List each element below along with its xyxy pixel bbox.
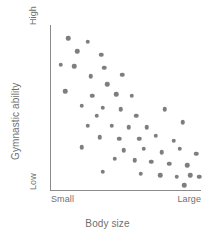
y-tick-label-low: Low <box>28 156 38 190</box>
data-point <box>89 74 94 79</box>
data-point <box>95 114 100 119</box>
data-point <box>138 171 143 176</box>
data-point <box>141 147 146 152</box>
data-point <box>66 36 71 41</box>
scatter-plot-figure: Gymnastic ability High Low Small Large B… <box>0 0 215 244</box>
data-point <box>101 105 106 110</box>
data-point <box>120 72 125 77</box>
x-tick-label-small: Small <box>51 194 74 204</box>
data-point <box>113 156 118 161</box>
data-point <box>79 145 84 150</box>
x-axis-line <box>50 190 201 191</box>
data-point <box>126 125 131 130</box>
data-point <box>194 151 199 156</box>
y-tick-label-high: High <box>28 0 38 25</box>
data-point <box>132 158 137 163</box>
data-point <box>163 107 168 112</box>
data-point <box>158 173 163 178</box>
data-point <box>101 170 106 175</box>
x-axis-title: Body size <box>0 218 215 229</box>
data-point <box>149 160 154 165</box>
data-point <box>129 94 134 99</box>
data-point <box>79 104 84 109</box>
data-point <box>122 148 127 153</box>
data-point <box>175 175 180 180</box>
data-point <box>181 120 186 125</box>
data-point <box>185 163 190 168</box>
data-point <box>144 125 149 130</box>
data-point <box>72 64 77 69</box>
data-point <box>86 39 91 44</box>
data-point <box>75 49 80 54</box>
data-point <box>105 82 110 87</box>
data-point <box>153 133 158 138</box>
data-point <box>86 123 91 128</box>
data-point <box>134 114 139 119</box>
data-point <box>114 92 119 97</box>
x-tick-label-large: Large <box>177 194 201 204</box>
data-point <box>188 173 193 178</box>
data-point <box>182 183 187 188</box>
data-point <box>90 94 95 99</box>
data-point <box>117 137 122 142</box>
data-point <box>172 138 177 143</box>
data-point <box>98 135 103 140</box>
data-point <box>63 89 68 94</box>
data-point <box>110 123 115 128</box>
data-point <box>119 107 124 112</box>
plot-area <box>50 25 201 190</box>
data-point <box>102 66 107 71</box>
data-point <box>99 52 104 57</box>
data-point <box>58 62 63 67</box>
data-point <box>197 175 202 180</box>
data-point <box>167 161 172 166</box>
y-axis-title: Gymnastic ability <box>10 83 21 160</box>
data-point <box>159 150 164 155</box>
data-point <box>178 147 183 152</box>
data-point <box>137 137 142 142</box>
